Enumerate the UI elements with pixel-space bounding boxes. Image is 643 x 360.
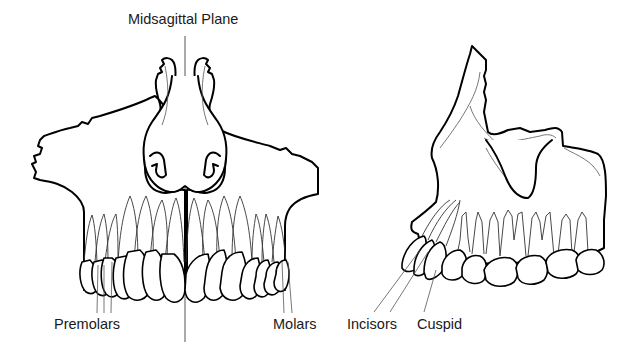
molars-label: Molars <box>273 317 317 332</box>
midsagittal-plane-label: Midsagittal Plane <box>128 12 238 27</box>
maxilla-diagram: Midsagittal Plane Premolars Molars Incis… <box>0 0 643 360</box>
frontal-view-maxilla <box>32 58 318 302</box>
premolars-label: Premolars <box>54 317 120 332</box>
incisors-label: Incisors <box>347 317 397 332</box>
lateral-view-maxilla <box>402 46 606 286</box>
cuspid-label: Cuspid <box>417 317 462 332</box>
